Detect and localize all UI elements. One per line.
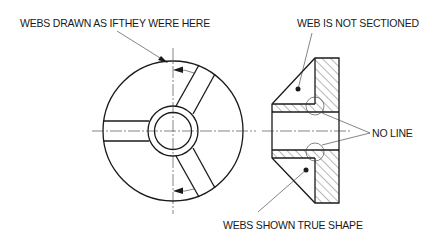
leader-no-line-bottom — [322, 133, 370, 145]
web-upper-edge-2 — [193, 74, 215, 114]
label-webs-drawn: WEBS DRAWN AS IFTHEY WERE HERE — [20, 17, 210, 29]
drawing-canvas: WEBS DRAWN AS IFTHEY WERE HERE WEB IS NO… — [0, 0, 439, 244]
leader-webs-true-shape — [258, 170, 306, 212]
leader-webs-drawn — [117, 31, 165, 61]
arrow-bottom-icon — [173, 188, 183, 195]
label-no-line: NO LINE — [372, 127, 413, 139]
end-view — [92, 31, 256, 214]
label-webs-true-shape: WEBS SHOWN TRUE SHAPE — [223, 219, 363, 231]
leader-no-line-top — [322, 113, 370, 133]
web-lower-edge-2 — [193, 148, 215, 188]
section-view — [258, 33, 370, 212]
arrow-top-icon — [173, 67, 183, 74]
leader-web-not-sectioned — [298, 33, 312, 89]
label-web-not-sectioned: WEB IS NOT SECTIONED — [297, 17, 419, 29]
